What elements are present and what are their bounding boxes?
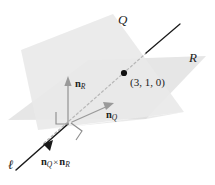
normal-r-label: nR (75, 79, 85, 90)
figure-canvas: Q R ℓ (3, 1, 0) nR nQ nQ×nR (0, 0, 215, 185)
cross-right-subscript: R (65, 160, 70, 169)
plane-r-label: R (189, 51, 197, 64)
normal-r-subscript: R (81, 82, 86, 91)
cross-product-label: nQ×nR (41, 157, 70, 168)
normal-q-label: nQ (106, 110, 117, 121)
point-marker (121, 70, 127, 76)
intersection-line-upper (146, 24, 180, 53)
geometry-diagram (0, 0, 215, 185)
normal-q-subscript: Q (112, 113, 117, 122)
line-l-label: ℓ (8, 158, 13, 171)
plane-q-label: Q (118, 13, 127, 26)
point-coordinates-label: (3, 1, 0) (130, 77, 165, 88)
